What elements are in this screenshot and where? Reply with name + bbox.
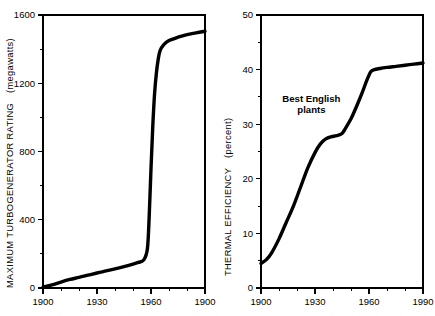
y-tick-label: 1200 <box>14 78 35 89</box>
y-axis-title-right: THERMAL EFFICIENCY (percent) <box>223 118 233 276</box>
y-tick-label: 30 <box>242 119 253 130</box>
chart-panel-thermal-efficiency: 010203040501900193019601990 THERMAL EFFI… <box>218 0 435 316</box>
plot-axes <box>261 15 423 288</box>
x-tick-label: 1930 <box>304 296 325 307</box>
plot-frame <box>43 15 205 288</box>
x-tick-label: 1900 <box>194 296 215 307</box>
y-tick-label: 50 <box>242 9 253 20</box>
x-tick-label: 1930 <box>86 296 107 307</box>
figure-root: 0400800120016001900193019601900 MAXIMUM … <box>0 0 435 316</box>
series-line-turbogenerator-rating <box>43 31 205 287</box>
turbogenerator-rating-svg: 0400800120016001900193019601900 MAXIMUM … <box>0 0 217 316</box>
x-tick-label: 1900 <box>32 296 53 307</box>
plot-frame <box>261 15 423 288</box>
y-tick-label: 0 <box>248 282 253 293</box>
y-tick-label: 800 <box>19 146 35 157</box>
left-tick-labels: 0400800120016001900193019601900 <box>14 9 216 306</box>
y-axis-title-left: MAXIMUM TURBOGENERATOR RATING (megawatts… <box>5 38 15 288</box>
annotation-best-english-plants-line1: Best English <box>282 93 340 104</box>
left-axis-group <box>38 15 205 294</box>
right-tick-labels: 010203040501900193019601990 <box>242 9 433 306</box>
x-tick-label: 1990 <box>412 296 433 307</box>
y-tick-label: 1600 <box>14 9 35 20</box>
x-tick-label: 1960 <box>140 296 161 307</box>
y-tick-label: 20 <box>242 173 253 184</box>
plot-axes <box>43 15 205 288</box>
y-tick-label: 400 <box>19 214 35 225</box>
y-tick-label: 0 <box>30 282 35 293</box>
chart-panel-turbogenerator-rating: 0400800120016001900193019601900 MAXIMUM … <box>0 0 217 316</box>
annotation-best-english-plants-line2: plants <box>297 104 325 115</box>
y-tick-label: 10 <box>242 228 253 239</box>
right-axis-group <box>256 15 423 294</box>
x-tick-label: 1960 <box>358 296 379 307</box>
thermal-efficiency-svg: 010203040501900193019601990 THERMAL EFFI… <box>218 0 435 316</box>
x-tick-label: 1900 <box>250 296 271 307</box>
y-tick-label: 40 <box>242 64 253 75</box>
